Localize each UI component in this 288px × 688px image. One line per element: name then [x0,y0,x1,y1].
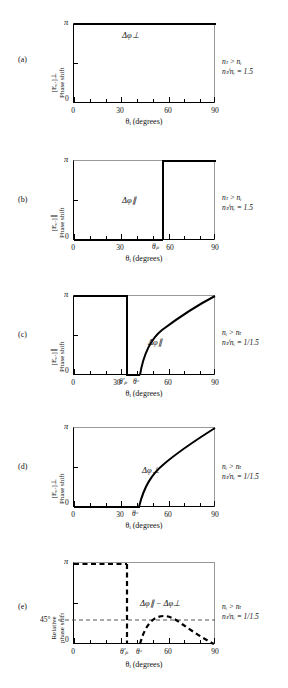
panel-b-ylabel: [E₀ᵣ]∥ Phase shift [50,207,66,238]
panel-d-angle-marker: θᶜ [132,509,138,518]
panel-c-curve-rise [74,296,216,376]
panel-d-ylabel-top: [E₀ᵣ]⊥ [50,473,58,504]
panel-b-ylabel-top: [E₀ᵣ]∥ [50,207,58,238]
panel-a-note-line1: nₜ > nᵢ [222,57,253,67]
panel-c-xlabel-60: 60 [158,378,178,387]
panel-c-y-zero-tick: 0 [65,366,69,375]
panel-a-xcaption: θᵢ (degrees) [0,117,288,126]
panel-a-ylabel-top: [E₀ᵣ]⊥ [50,67,58,98]
panel-a-xtick-80 [200,99,201,102]
panel-d-xlabel-30: 30 [110,510,130,519]
panel-a-curve [74,23,216,25]
panel-a-xtick-20 [106,99,107,102]
panel-c-plot-frame: Δφ∥ [73,295,215,375]
panel-a-note-line2: nₜ/nᵢ = 1.5 [222,67,253,77]
panel-e-curve-label: Δφ∥ − Δφ⊥ [140,598,180,608]
panel-c-y-top-tick: π [64,289,68,299]
panel-a-curve-label: Δφ⊥ [122,30,139,40]
panel-d-note-line2: nₜ/nᵢ = 1/1.5 [222,472,259,482]
panel-d-plot-frame: Δφ⊥ [73,427,215,507]
panel-c-xcaption: θᵢ (degrees) [0,389,288,398]
panel-e-note-line2: nₜ/nᵢ = 1/1.5 [222,612,259,622]
panel-e-plot-frame: Δφ∥ − Δφ⊥ [73,562,215,644]
panel-e-index-note: nᵢ > nₜ nₜ/nᵢ = 1/1.5 [222,602,259,622]
panel-a-xlabel-30: 30 [110,106,130,115]
panel-e-ylabel-top: Relative [50,613,58,643]
panel-a-plot-frame: Δφ⊥ [73,23,215,103]
panel-b: (b) [E₀ᵣ]∥ Phase shift π 0 Δφ∥ θₚ 0 30 6… [0,140,288,270]
panel-a-xtick-60 [169,97,170,102]
panel-d-y-zero-tick: 0 [65,498,69,507]
panel-d-xlabel-60: 60 [158,510,178,519]
panel-c-letter: (c) [18,330,27,339]
panel-b-angle-marker: θₚ [152,242,159,251]
panel-a: (a) [E₀ᵣ]⊥ Phase shift π 0 Δφ⊥ 0 30 60 9… [0,0,288,140]
panel-b-curve-low [74,239,163,241]
panel-a-index-note: nₜ > nᵢ nₜ/nᵢ = 1.5 [222,57,253,77]
panel-b-y-top-tick: π [64,154,68,164]
panel-e-xlabel-0: 0 [63,647,83,656]
panel-b-xcaption: θᵢ (degrees) [0,254,288,263]
panel-a-y-zero-tick: 0 [65,94,69,103]
panel-a-xlabel-0: 0 [63,106,83,115]
panel-d: (d) [E₀ᵣ]⊥ Phase shift π 0 Δφ⊥ θᶜ 0 30 6… [0,400,288,530]
panel-d-y-top-tick: π [64,421,68,431]
panel-e-y-zero-tick: 0 [65,635,69,644]
panel-e-angle-marker-1: θ′ₚ [120,647,128,656]
panel-d-letter: (d) [18,462,27,471]
panel-b-xlabel-60: 60 [160,243,180,252]
panel-c-note-line2: nₜ/nᵢ = 1/1.5 [222,338,259,348]
panel-b-xtick-70 [184,236,185,239]
panel-e: (e) Relative phase shift π 0 Δφ∥ − Δφ⊥ 4… [0,530,288,688]
panel-a-letter: (a) [18,55,27,64]
panel-b-xtick-60 [169,234,170,239]
panel-c-curve-label: Δφ∥ [148,337,162,347]
panel-d-xlabel-0: 0 [63,510,83,519]
panel-b-curve-label: Δφ∥ [122,195,136,205]
panel-e-reference-label: 45° [40,615,51,624]
panel-b-xlabel-90: 90 [205,243,225,252]
panel-a-ylabel: [E₀ᵣ]⊥ Phase shift [50,67,66,98]
panel-a-xtick-70 [184,99,185,102]
panel-c-xlabel-30: 30 [107,378,127,387]
panel-b-xtick-80 [200,236,201,239]
panel-b-letter: (b) [18,195,27,204]
panel-e-ylabel: Relative phase shift [50,613,66,643]
panel-a-xlabel-90: 90 [205,106,225,115]
panel-c-xlabel-0: 0 [63,378,83,387]
panel-c-note-line1: nᵢ > nₜ [222,328,259,338]
panel-b-note-line2: nₜ/nᵢ = 1.5 [222,203,253,213]
panel-d-note-line1: nᵢ > nₜ [222,462,259,472]
panel-c-ylabel-top: [E₀ᵣ]∥ [50,341,58,372]
panel-b-y-zero-tick: 0 [65,232,69,241]
panel-e-xlabel-60: 60 [158,647,178,656]
panel-a-y-top-tick: π [64,17,68,27]
panel-d-ylabel: [E₀ᵣ]⊥ Phase shift [50,473,66,504]
panel-d-index-note: nᵢ > nₜ nₜ/nᵢ = 1/1.5 [222,462,259,482]
panel-e-xcaption: θᵢ (degrees) [0,660,288,669]
panel-b-curve-high [162,160,216,162]
panel-a-xtick-10 [90,99,91,102]
panel-e-xlabel-90: 90 [205,647,225,656]
panel-b-xlabel-30: 30 [110,243,130,252]
panel-b-ytick-mid [74,200,78,201]
panel-a-xtick-40 [137,99,138,102]
panel-a-xlabel-60: 60 [158,106,178,115]
panel-b-note-line1: nₜ > nᵢ [222,193,253,203]
panel-b-xlabel-0: 0 [63,243,83,252]
panel-e-letter: (e) [18,602,27,611]
panel-e-y-top-tick: π [64,556,68,566]
panel-b-curve-step [162,160,164,240]
panel-d-xlabel-90: 90 [205,510,225,519]
panel-b-xtick-90 [214,234,215,239]
panel-d-curve-label: Δφ⊥ [142,465,159,475]
panel-e-angle-marker-2: θᶜ [136,647,142,656]
panel-c-ylabel: [E₀ᵣ]∥ Phase shift [50,341,66,372]
panel-e-note-line1: nᵢ > nₜ [222,602,259,612]
panel-a-xtick-50 [153,99,154,102]
panel-d-xcaption: θᵢ (degrees) [0,521,288,530]
panel-c-angle-marker-2: θᶜ [133,377,139,386]
panel-c: (c) [E₀ᵣ]∥ Phase shift π 0 Δφ∥ θ′ₚ θᶜ 0 … [0,270,288,400]
panel-b-plot-frame: Δφ∥ [73,160,215,240]
panel-a-xtick-0 [74,97,75,102]
